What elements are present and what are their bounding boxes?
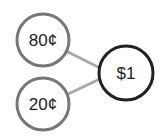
connector-top [66, 51, 100, 68]
whole-label: $1 [117, 64, 136, 83]
number-bond-diagram: 80¢ 20¢ $1 [0, 0, 160, 139]
part-label-top: 80¢ [29, 31, 57, 50]
part-label-bottom: 20¢ [29, 95, 57, 114]
connector-bottom [68, 79, 100, 94]
